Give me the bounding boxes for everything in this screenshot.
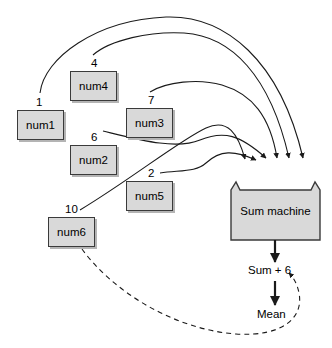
value-label-num5: 2 <box>148 167 154 179</box>
value-label-num2: 6 <box>91 131 97 143</box>
value-label-num1: 1 <box>36 96 42 108</box>
variable-box-num5[interactable]: num5 <box>126 181 173 211</box>
variable-box-num3[interactable]: num3 <box>126 108 173 138</box>
feedback-arrow-num6-to-sum <box>82 249 300 334</box>
variable-box-label: num6 <box>57 226 86 238</box>
variable-box-label: num4 <box>79 80 108 92</box>
flow-arrow-num4 <box>93 33 289 158</box>
variable-box-num2[interactable]: num2 <box>70 145 117 175</box>
sum-machine-label: Sum machine <box>231 205 320 217</box>
variable-box-num4[interactable]: num4 <box>70 71 117 101</box>
variable-box-label: num5 <box>135 190 164 202</box>
value-label-num6: 10 <box>65 203 78 215</box>
value-label-num4: 4 <box>91 57 97 69</box>
variable-box-num6[interactable]: num6 <box>48 217 95 247</box>
mean-label: Mean <box>257 308 286 320</box>
diagram-canvas: num1 num4 num3 num2 num5 num6 1 4 7 6 2 … <box>0 0 332 348</box>
flow-arrow-num5 <box>160 153 256 173</box>
variable-box-label: num1 <box>26 119 55 131</box>
variable-box-num1[interactable]: num1 <box>17 110 64 140</box>
value-label-num3: 7 <box>148 94 154 106</box>
sum-plus-six-label: Sum + 6 <box>248 264 291 276</box>
diagram-vector-layer <box>0 0 332 348</box>
variable-box-label: num3 <box>135 117 164 129</box>
variable-box-label: num2 <box>79 154 108 166</box>
